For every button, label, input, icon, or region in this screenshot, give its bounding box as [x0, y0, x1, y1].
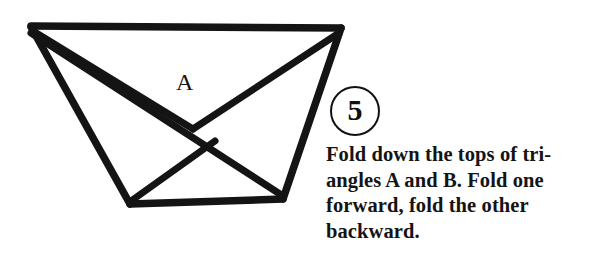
diagram-svg — [0, 0, 360, 261]
step-number-text: 5 — [348, 95, 363, 125]
edge-top — [31, 26, 341, 28]
outer-trapezoid — [31, 26, 341, 204]
instruction-line-1: Fold down the tops of tri- — [326, 142, 601, 168]
edge-bottom — [130, 199, 283, 204]
instruction-line-4: backward. — [326, 219, 601, 245]
instruction-line-3: forward, fold the other — [326, 193, 601, 219]
crease-cross-lines — [31, 33, 283, 201]
crease-diagonal-down-right — [31, 33, 283, 196]
crease-diagonal-up-right — [131, 141, 215, 201]
instruction-line-2: angles A and B. Fold one — [326, 168, 601, 194]
edge-left — [31, 27, 130, 204]
page-root: A 5 Fold down the tops of tri- angles A … — [0, 0, 601, 261]
folded-paper-diagram: A — [0, 0, 360, 261]
triangle-a-label: A — [176, 70, 194, 94]
crease-right-arm — [193, 33, 339, 129]
instruction-text: Fold down the tops of tri- angles A and … — [326, 142, 601, 244]
step-number-badge: 5 — [330, 86, 380, 136]
instruction-panel: 5 Fold down the tops of tri- angles A an… — [326, 84, 601, 261]
